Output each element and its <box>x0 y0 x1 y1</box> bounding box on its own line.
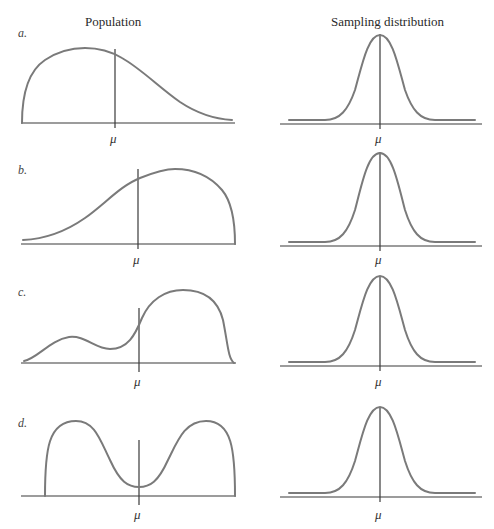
mu-label-c-sampling: μ <box>375 374 382 390</box>
panel-b-population <box>21 169 236 249</box>
mu-label-d-population: μ <box>134 507 141 523</box>
mu-label-a-population: μ <box>110 131 117 147</box>
population-curve <box>22 48 232 123</box>
panel-d-population <box>21 421 236 505</box>
sampling-curve <box>289 153 475 242</box>
mu-label-b-population: μ <box>133 252 140 268</box>
distribution-figure <box>0 0 494 529</box>
mu-label-a-sampling: μ <box>375 131 382 147</box>
sampling-curve <box>289 276 475 362</box>
panel-c-population <box>21 290 236 372</box>
population-curve <box>24 290 234 363</box>
panel-d-sampling <box>280 407 482 502</box>
sampling-curve <box>289 407 475 493</box>
population-curve <box>45 421 235 496</box>
panel-a-sampling <box>280 34 482 129</box>
panel-a-population <box>21 48 235 128</box>
sampling-curve <box>289 35 475 120</box>
mu-label-d-sampling: μ <box>375 507 382 523</box>
population-curve <box>23 169 235 244</box>
mu-label-c-population: μ <box>134 374 141 390</box>
mu-label-b-sampling: μ <box>375 252 382 268</box>
panel-c-sampling <box>280 276 482 371</box>
panel-b-sampling <box>280 152 482 251</box>
